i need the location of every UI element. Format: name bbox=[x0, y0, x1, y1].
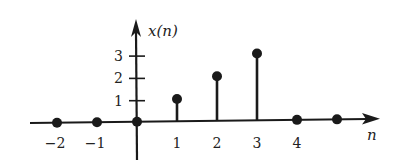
stem-marker bbox=[52, 118, 62, 128]
x-tick-label: 4 bbox=[293, 135, 302, 151]
stem-marker bbox=[212, 71, 222, 81]
stems bbox=[52, 48, 342, 127]
stem-marker bbox=[92, 117, 102, 127]
stem-plot: 123−2−11234x(n)n bbox=[0, 0, 398, 167]
x-axis-label: n bbox=[367, 126, 377, 144]
x-tick-label: 3 bbox=[253, 135, 262, 151]
x-axis-line bbox=[30, 119, 368, 123]
axes bbox=[30, 19, 380, 160]
labels: 123−2−11234x(n)n bbox=[45, 22, 377, 151]
y-axis-label: x(n) bbox=[148, 22, 178, 40]
stem-marker bbox=[292, 115, 302, 125]
x-tick-label: 2 bbox=[213, 135, 222, 151]
y-tick-label: 2 bbox=[114, 70, 123, 86]
x-tick-label: −2 bbox=[45, 135, 66, 151]
x-tick-label: 1 bbox=[173, 135, 182, 151]
y-tick-label: 3 bbox=[114, 48, 123, 64]
stem-marker bbox=[332, 114, 342, 124]
stem-marker bbox=[132, 117, 142, 127]
y-tick-label: 1 bbox=[114, 93, 123, 109]
stem-marker bbox=[252, 48, 262, 58]
x-tick-label: −1 bbox=[85, 135, 106, 151]
y-axis-line bbox=[136, 32, 137, 160]
stem-marker bbox=[172, 94, 182, 104]
